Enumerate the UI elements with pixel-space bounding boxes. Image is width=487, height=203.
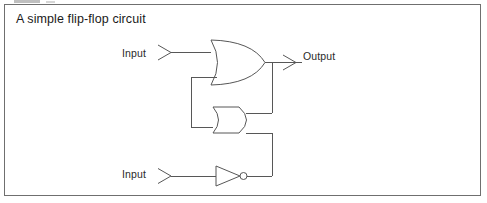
figure-caption: A simple flip-flop circuit — [16, 12, 146, 26]
label-output: Output — [303, 50, 335, 62]
figure-box: A simple flip-flop circuit — [4, 4, 481, 196]
cropped-artifact-top — [14, 0, 40, 3]
label-input-top: Input — [122, 47, 146, 59]
label-input-bottom: Input — [122, 168, 146, 180]
cropped-artifact-top-secondary — [46, 1, 55, 3]
figure-root: A simple flip-flop circuit — [0, 0, 487, 203]
